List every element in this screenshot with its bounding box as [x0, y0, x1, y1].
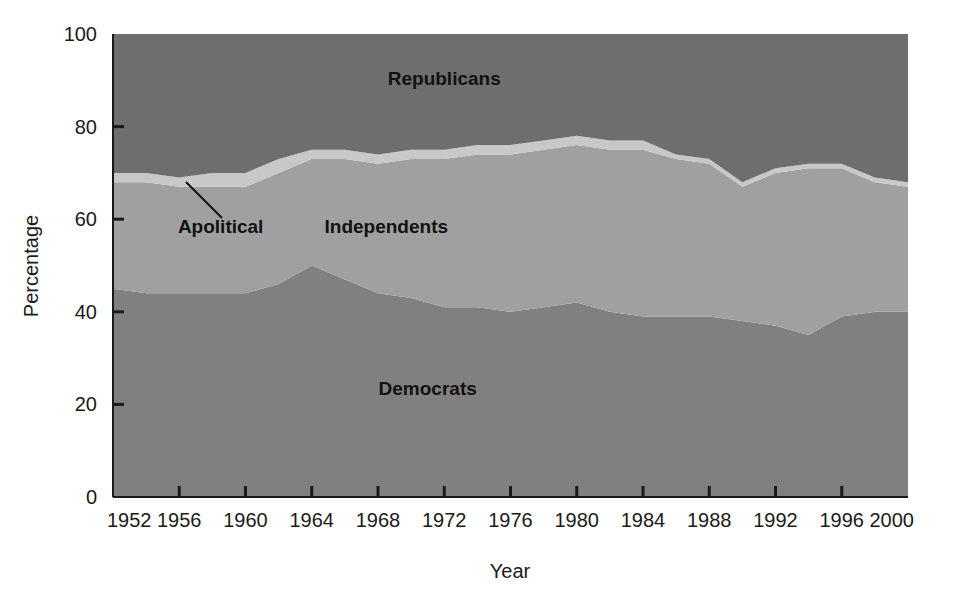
x-axis-title: Year [490, 560, 531, 582]
y-axis-title: Percentage [20, 215, 42, 317]
x-tick-label: 1984 [621, 509, 666, 531]
series-label-republicans: Republicans [388, 68, 501, 89]
x-tick-label: 1960 [223, 509, 268, 531]
x-tick-label: 1976 [488, 509, 533, 531]
x-tick-label: 1972 [422, 509, 467, 531]
y-tick-label: 80 [75, 116, 97, 138]
chart-canvas: 020406080100 195219561960196419681972197… [0, 0, 965, 601]
series-label-independents: Independents [325, 216, 449, 237]
x-tick-label: 1956 [157, 509, 202, 531]
y-tick-label: 100 [64, 23, 97, 45]
x-tick-label: 1992 [753, 509, 798, 531]
x-tick-label: 1980 [555, 509, 600, 531]
x-tick-label: 1952 [107, 509, 152, 531]
y-tick-label: 40 [75, 301, 97, 323]
x-tick-label: 2000 [870, 509, 915, 531]
y-tick-label: 60 [75, 208, 97, 230]
x-tick-label: 1988 [687, 509, 732, 531]
x-tick-label: 1996 [820, 509, 865, 531]
series-label-apolitical: Apolitical [178, 216, 264, 237]
stacked-area-chart: 020406080100 195219561960196419681972197… [0, 0, 965, 601]
y-tick-label: 20 [75, 393, 97, 415]
plot-areas [113, 34, 908, 497]
y-tick-label: 0 [86, 486, 97, 508]
x-tick-label: 1968 [356, 509, 401, 531]
series-label-democrats: Democrats [379, 378, 477, 399]
x-tick-label: 1964 [290, 509, 335, 531]
